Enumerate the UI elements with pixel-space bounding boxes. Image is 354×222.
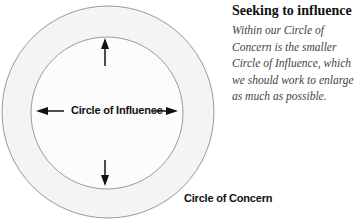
description-line: Within our Circle of xyxy=(232,22,354,39)
description-line: Circle of Influence, which xyxy=(232,55,354,72)
description-line: we should work to enlarge xyxy=(232,72,354,89)
description-line: as much as possible. xyxy=(232,88,354,105)
section-title: Seeking to influence xyxy=(232,3,352,19)
description-text: Within our Circle of Concern is the smal… xyxy=(232,22,354,105)
circle-of-influence-label: Circle of Influence xyxy=(71,104,163,116)
description-line: Concern is the smaller xyxy=(232,39,354,56)
circle-of-concern-label: Circle of Concern xyxy=(184,192,272,204)
